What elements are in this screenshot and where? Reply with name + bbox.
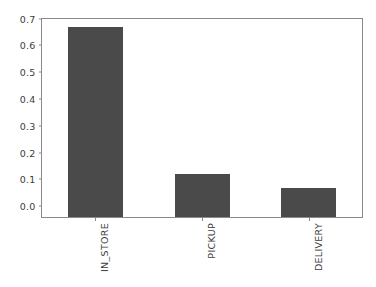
- x-axis-tick-mark: [95, 217, 96, 221]
- y-axis-tick-mark: [39, 45, 43, 46]
- y-axis-tick-mark: [39, 18, 43, 19]
- y-axis-tick-label: 0.1: [20, 174, 39, 185]
- bar: [68, 27, 123, 218]
- x-axis-tick-label: IN_STORE: [99, 223, 110, 272]
- y-axis-tick: 0.6: [20, 40, 42, 51]
- x-axis-tick-mark: [309, 217, 310, 221]
- y-axis-tick-mark: [39, 98, 43, 99]
- y-axis-tick-mark: [39, 179, 43, 180]
- x-axis-tick-label: DELIVERY: [313, 223, 324, 271]
- y-axis-tick-label: 0.6: [20, 40, 39, 51]
- y-axis-tick: 0.0: [20, 201, 42, 212]
- bar-chart-figure: 0.00.10.20.30.40.50.60.7 IN_STOREPICKUPD…: [0, 0, 376, 287]
- y-axis-tick: 0.2: [20, 147, 42, 158]
- y-axis-tick: 0.3: [20, 120, 42, 131]
- y-axis-tick: 0.1: [20, 174, 42, 185]
- y-axis-tick-label: 0.4: [20, 93, 39, 104]
- y-axis-tick: 0.4: [20, 93, 42, 104]
- y-axis-tick-label: 0.7: [20, 13, 39, 24]
- y-axis-tick: 0.5: [20, 67, 42, 78]
- x-axis-tick-label: PICKUP: [206, 223, 217, 259]
- y-axis-tick-mark: [39, 206, 43, 207]
- bar: [175, 174, 230, 217]
- x-axis-tick-mark: [202, 217, 203, 221]
- bar: [281, 188, 336, 217]
- y-axis-tick-label: 0.3: [20, 120, 39, 131]
- y-axis-tick-label: 0.5: [20, 67, 39, 78]
- y-axis-tick-label: 0.0: [20, 201, 39, 212]
- y-axis-tick-mark: [39, 125, 43, 126]
- y-axis-tick-label: 0.2: [20, 147, 39, 158]
- plot-area: 0.00.10.20.30.40.50.60.7 IN_STOREPICKUPD…: [41, 18, 363, 218]
- y-axis-tick-mark: [39, 152, 43, 153]
- y-axis-tick-mark: [39, 72, 43, 73]
- y-axis-tick: 0.7: [20, 13, 42, 24]
